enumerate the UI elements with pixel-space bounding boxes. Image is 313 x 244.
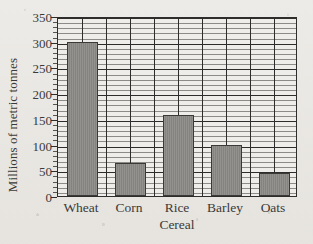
y-axis-tick-label: 50 [24, 165, 52, 178]
y-axis-tick-label: 150 [24, 113, 52, 126]
bar-corn [115, 163, 146, 196]
bar-oats [259, 173, 290, 196]
x-axis-tick-label: Corn [116, 199, 143, 217]
y-axis-tick-label: 100 [24, 139, 52, 152]
x-axis-tick-label: Wheat [63, 199, 98, 217]
x-axis-tick-label: Barley [207, 199, 243, 217]
y-axis-tick-label: 250 [24, 62, 52, 75]
y-axis-title: Millions of metric tonnes [4, 35, 22, 215]
y-axis-tick-label: 0 [24, 191, 52, 204]
y-axis-tick-major [51, 197, 57, 198]
y-axis-tick-label: 200 [24, 88, 52, 101]
y-axis-tick-label: 300 [24, 36, 52, 49]
bar-rice [163, 115, 194, 196]
x-axis-tick-label: Rice [165, 199, 190, 217]
bar-chart-figure: Millions of metric tonnes 05010015020025… [0, 0, 313, 244]
y-axis-tick-label: 350 [24, 11, 52, 24]
y-axis-tick-label-group: 050100150200250300350 [22, 0, 52, 244]
x-axis-tick-label: Oats [261, 199, 286, 217]
bar-barley [211, 145, 242, 196]
plot-area [57, 17, 297, 197]
x-axis-title: Cereal [57, 216, 297, 234]
bar-series [58, 18, 296, 196]
bar-wheat [67, 42, 98, 196]
